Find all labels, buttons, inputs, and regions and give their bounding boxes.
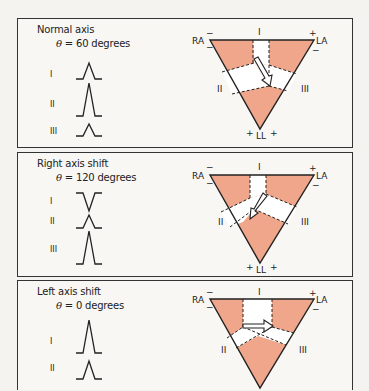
svg-text:−: −: [206, 302, 214, 312]
side-iii-label: III: [301, 217, 309, 227]
svg-text:+: +: [309, 163, 317, 173]
svg-text:+: +: [270, 262, 278, 272]
vertex-ra-label: RA: [192, 36, 205, 46]
einthoven-triangle: RA LA LL I II III − − + − + +: [18, 153, 354, 278]
panel-left-axis-shift: Left axis shift θ = 0 degrees I II RA LA…: [17, 280, 353, 390]
vertex-ll-label: LL: [256, 265, 266, 275]
svg-text:+: +: [309, 28, 317, 38]
svg-text:−: −: [206, 178, 214, 188]
svg-text:+: +: [270, 128, 278, 138]
side-ii-label: II: [217, 84, 222, 94]
einthoven-triangle: RA LA I II III − − + −: [18, 281, 354, 391]
svg-text:−: −: [206, 28, 214, 38]
svg-text:−: −: [206, 42, 214, 52]
svg-text:−: −: [206, 287, 214, 297]
panel-right-axis-shift: Right axis shift θ = 120 degrees I II II…: [17, 152, 353, 277]
vertex-ra-label: RA: [192, 171, 205, 181]
side-ii-label: II: [218, 217, 223, 227]
vertex-ra-label: RA: [192, 295, 205, 305]
side-i-label: I: [258, 162, 261, 172]
side-i-label: I: [258, 27, 261, 37]
vertex-ll-label: LL: [256, 131, 266, 141]
side-ii-label: II: [221, 345, 226, 355]
svg-text:−: −: [312, 180, 320, 190]
side-i-label: I: [258, 287, 261, 297]
svg-text:+: +: [309, 288, 317, 298]
side-iii-label: III: [299, 345, 307, 355]
svg-text:+: +: [246, 128, 254, 138]
panel-normal-axis: Normal axis θ = 60 degrees I II III RA L…: [17, 18, 353, 148]
einthoven-triangle: RA LA LL I II III − − + − + +: [18, 19, 354, 149]
svg-text:−: −: [206, 162, 214, 172]
side-iii-label: III: [301, 84, 309, 94]
svg-text:−: −: [312, 45, 320, 55]
svg-text:+: +: [246, 262, 254, 272]
svg-text:−: −: [312, 304, 320, 314]
